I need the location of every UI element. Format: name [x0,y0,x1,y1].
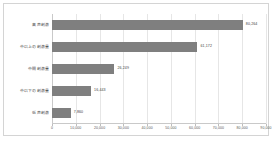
bar-value-label: 16,443 [94,89,106,93]
chart-frame: 高声刺激中以上の刺激量中間刺激量中以下の刺激量低声刺激 80,26461,172… [3,3,269,136]
x-tick-label: 0 [51,127,53,131]
bar-value-label: 7,860 [74,111,84,115]
bar-row: 7,860 [52,108,266,117]
x-tick-label: 20,000 [94,127,105,131]
bar-value-label: 80,264 [246,23,258,27]
x-tick-label: 80,000 [237,127,248,131]
bar-row: 61,172 [52,42,266,51]
bar[interactable] [52,86,91,95]
x-tick-label: 40,000 [141,127,152,131]
category-label: 高声刺激 [32,23,49,27]
x-tick-label: 70,000 [213,127,224,131]
bar[interactable] [52,64,114,73]
x-tick-label: 50,000 [165,127,176,131]
category-label: 中間刺激量 [28,67,49,71]
x-tick-label: 30,000 [118,127,129,131]
bar-value-label: 61,172 [200,45,212,49]
bar[interactable] [52,20,243,29]
x-tick-label: 60,000 [189,127,200,131]
gridline [266,14,267,124]
category-label: 中以上の刺激量 [20,45,49,49]
category-label: 中以下の刺激量 [20,89,49,93]
bars-layer: 80,26461,17226,24916,4437,860 [52,14,266,124]
x-axis-tick-labels: 010,00020,00030,00040,00050,00060,00070,… [52,127,266,135]
bar[interactable] [52,108,71,117]
x-tick-label: 90,000 [260,127,271,131]
bar-chart-figure: 高声刺激中以上の刺激量中間刺激量中以下の刺激量低声刺激 80,26461,172… [0,0,272,141]
plot-area: 80,26461,17226,24916,4437,860 [52,14,266,124]
bar-row: 16,443 [52,86,266,95]
bar-row: 26,249 [52,64,266,73]
category-axis: 高声刺激中以上の刺激量中間刺激量中以下の刺激量低声刺激 [4,14,49,124]
bar-value-label: 26,249 [117,67,129,71]
category-label: 低声刺激 [32,111,49,115]
bar-row: 80,264 [52,20,266,29]
bar[interactable] [52,42,197,51]
x-tick-label: 10,000 [70,127,81,131]
